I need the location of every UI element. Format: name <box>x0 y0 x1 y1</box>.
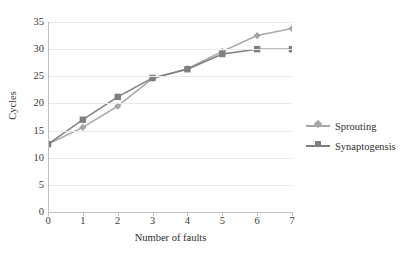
x-tick-label: 2 <box>109 216 127 227</box>
legend-item-sprouting[interactable]: Sprouting <box>306 116 414 136</box>
legend-item-synaptogensis[interactable]: Synaptogensis <box>306 136 414 156</box>
y-tick-label: 10 <box>22 152 44 163</box>
gridline <box>48 158 292 159</box>
data-point <box>184 66 190 72</box>
gridline <box>48 185 292 186</box>
y-tick-label: 25 <box>22 71 44 82</box>
x-tick-label: 4 <box>178 216 196 227</box>
x-tick-label: 7 <box>283 216 301 227</box>
x-axis-title: Number of faults <box>48 232 293 243</box>
gridline <box>48 22 292 23</box>
series-synaptogensis <box>48 46 292 147</box>
gridline <box>48 103 292 104</box>
series-layer <box>48 22 292 212</box>
y-tick-label: 15 <box>22 125 44 136</box>
x-tick-label: 5 <box>213 216 231 227</box>
gridline <box>48 49 292 50</box>
y-tick-label: 30 <box>22 44 44 55</box>
legend-swatch-square-icon <box>306 140 330 152</box>
x-tick-label: 1 <box>74 216 92 227</box>
plot-area <box>48 22 292 212</box>
gridline <box>48 131 292 132</box>
line-chart: 35 30 25 20 15 10 5 0 0 1 2 3 4 5 6 7 Nu… <box>0 0 415 257</box>
y-tick-label: 20 <box>22 98 44 109</box>
legend-label: Synaptogensis <box>335 141 396 152</box>
gridline <box>48 76 292 77</box>
x-tick-label: 6 <box>248 216 266 227</box>
data-point <box>219 51 225 57</box>
data-point <box>288 25 292 32</box>
x-tick-label: 3 <box>144 216 162 227</box>
series-sprouting <box>48 25 292 148</box>
y-axis-tick-labels: 35 30 25 20 15 10 5 0 <box>16 22 44 212</box>
y-tick-label: 35 <box>22 17 44 28</box>
x-tick-label: 0 <box>39 216 57 227</box>
legend-swatch-diamond-icon <box>306 120 330 132</box>
data-point <box>115 94 121 100</box>
legend-label: Sprouting <box>335 121 376 132</box>
data-point <box>254 32 261 39</box>
chart-legend: Sprouting Synaptogensis <box>306 116 414 156</box>
y-axis-title: Cycles <box>7 76 18 136</box>
y-axis-line <box>48 22 49 213</box>
y-tick-label: 5 <box>22 180 44 191</box>
data-point <box>80 117 86 123</box>
